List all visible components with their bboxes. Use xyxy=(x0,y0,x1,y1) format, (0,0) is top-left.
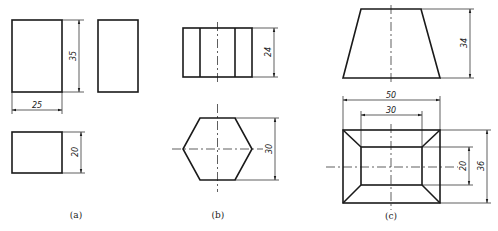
view-a-side xyxy=(98,20,138,92)
dim-label-30-top: 30 xyxy=(386,106,396,115)
dim-label-25: 25 xyxy=(32,101,42,110)
view-a-front xyxy=(12,20,62,92)
dim-label-36: 36 xyxy=(477,161,486,171)
dim-label-20-c: 20 xyxy=(459,161,468,171)
view-c-front-trapezoid xyxy=(343,5,440,82)
dim-label-20: 20 xyxy=(71,147,80,157)
dimension-c-top-width: 30 xyxy=(361,106,422,147)
engineering-drawing: 35 25 20 (a) 24 30 (b) xyxy=(0,0,498,231)
dim-label-50: 50 xyxy=(386,91,396,100)
dim-label-24: 24 xyxy=(264,47,273,57)
dim-label-35: 35 xyxy=(69,51,78,61)
dimension-c-top-depth: 20 xyxy=(422,147,473,185)
caption-b: (b) xyxy=(212,210,225,220)
dim-label-30: 30 xyxy=(265,144,274,154)
dimension-a-height: 35 xyxy=(62,20,84,92)
dimension-c-height: 34 xyxy=(421,9,474,78)
dimension-a-width: 25 xyxy=(12,92,62,114)
dimension-b-height: 24 xyxy=(252,28,278,77)
dim-label-34: 34 xyxy=(460,38,469,48)
view-c-top xyxy=(326,124,458,210)
view-b-front xyxy=(183,22,252,84)
view-a-top xyxy=(12,132,62,173)
caption-a: (a) xyxy=(70,210,82,220)
dimension-a-depth: 20 xyxy=(62,132,85,173)
caption-c: (c) xyxy=(385,211,397,221)
view-b-top-hexagon xyxy=(172,104,263,192)
